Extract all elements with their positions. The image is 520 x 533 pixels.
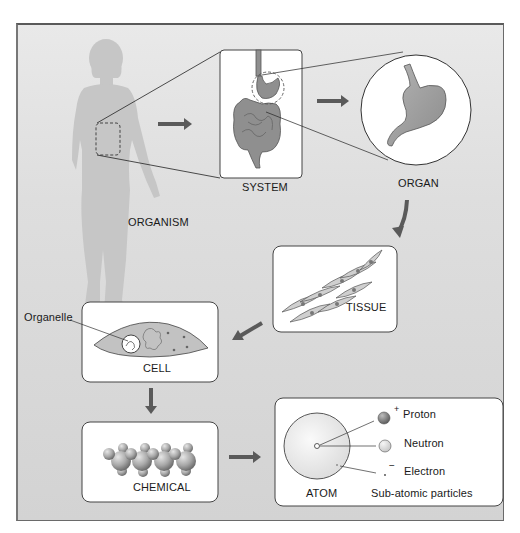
neutron-icon [379, 440, 391, 452]
diagram-artwork [0, 0, 520, 533]
label-electron: Electron [404, 465, 445, 477]
label-subatomic-particles: Sub-atomic particles [371, 487, 473, 499]
arrow-tissue-to-cell [232, 323, 262, 340]
label-cell: CELL [143, 362, 171, 374]
electron-charge: − [389, 460, 395, 471]
arrow-cell-to-chemical [145, 388, 157, 414]
arrow-organ-to-tissue [392, 200, 407, 238]
label-atom: ATOM [306, 487, 337, 499]
label-neutron: Neutron [404, 437, 444, 449]
label-chemical: CHEMICAL [133, 481, 191, 493]
arrow-system-to-organ [317, 95, 349, 107]
organelle [122, 335, 140, 353]
nucleus [315, 444, 320, 449]
organism-silhouette [72, 39, 160, 312]
label-proton: Proton [403, 408, 436, 420]
proton-icon [378, 412, 390, 424]
label-organelle: Organelle [24, 311, 73, 323]
label-tissue: TISSUE [346, 301, 386, 313]
arrow-chemical-to-atom [229, 451, 261, 463]
label-organ: ORGAN [398, 177, 439, 189]
arrow-organism-to-system [158, 118, 192, 130]
label-system: SYSTEM [242, 181, 288, 193]
label-organism: ORGANISM [128, 216, 189, 228]
proton-charge: + [394, 404, 399, 414]
electron-icon [384, 474, 386, 476]
